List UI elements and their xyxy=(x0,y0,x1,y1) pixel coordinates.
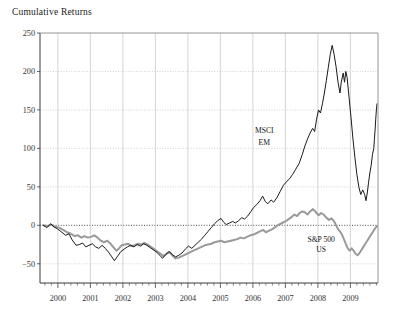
y-axis-tick-label: 100 xyxy=(23,144,35,153)
y-axis-tick-label: 250 xyxy=(23,29,35,38)
chart-figure: Cumulative Returns −50050100150200250200… xyxy=(0,0,408,314)
x-axis-tick-label: 2002 xyxy=(115,294,131,303)
y-axis-tick-label: 0 xyxy=(31,221,35,230)
series-annotation-label: S&P 500 xyxy=(307,235,335,244)
x-axis-tick-label: 2008 xyxy=(310,294,326,303)
y-axis-tick-label: 150 xyxy=(23,106,35,115)
x-axis-tick-label: 2000 xyxy=(50,294,66,303)
y-axis-tick-label: 200 xyxy=(23,67,35,76)
x-axis-tick-label: 2005 xyxy=(212,294,228,303)
x-axis-tick-label: 2004 xyxy=(180,294,196,303)
x-axis-tick-label: 2001 xyxy=(82,294,98,303)
series-annotation-label: MSCI xyxy=(255,126,274,135)
y-axis-tick-label: −50 xyxy=(22,260,35,269)
x-axis-tick-label: 2006 xyxy=(245,294,261,303)
cumulative-returns-chart: −500501001502002502000200120022003200420… xyxy=(0,0,408,314)
x-axis-tick-label: 2003 xyxy=(147,294,163,303)
y-axis-tick-label: 50 xyxy=(27,183,35,192)
series-annotation-label: EM xyxy=(259,138,271,147)
series-annotation-label: US xyxy=(316,245,326,254)
x-axis-tick-label: 2007 xyxy=(277,294,293,303)
x-axis-tick-label: 2009 xyxy=(342,294,358,303)
